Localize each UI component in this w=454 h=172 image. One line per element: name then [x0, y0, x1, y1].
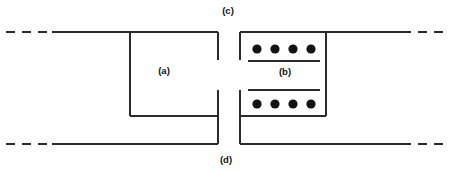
- fastener-dot: [270, 99, 279, 108]
- label-a: (a): [158, 65, 170, 76]
- label-b: (b): [279, 66, 291, 77]
- diagram-labels: (c) (a) (b) (d): [158, 5, 291, 165]
- fastener-dot: [306, 99, 315, 108]
- fastener-dot: [270, 44, 279, 53]
- splice-joint-diagram: (c) (a) (b) (d): [0, 0, 454, 172]
- fastener-row-upper: [252, 44, 315, 53]
- fastener-row-lower: [252, 99, 315, 108]
- fastener-dot: [252, 99, 261, 108]
- fastener-dot: [306, 44, 315, 53]
- label-d: (d): [220, 154, 232, 165]
- fastener-dot: [252, 44, 261, 53]
- label-c: (c): [222, 5, 234, 16]
- diagram-canvas: (c) (a) (b) (d): [0, 0, 454, 172]
- fastener-dot: [288, 99, 297, 108]
- fastener-dot: [288, 44, 297, 53]
- left-member: [6, 32, 218, 144]
